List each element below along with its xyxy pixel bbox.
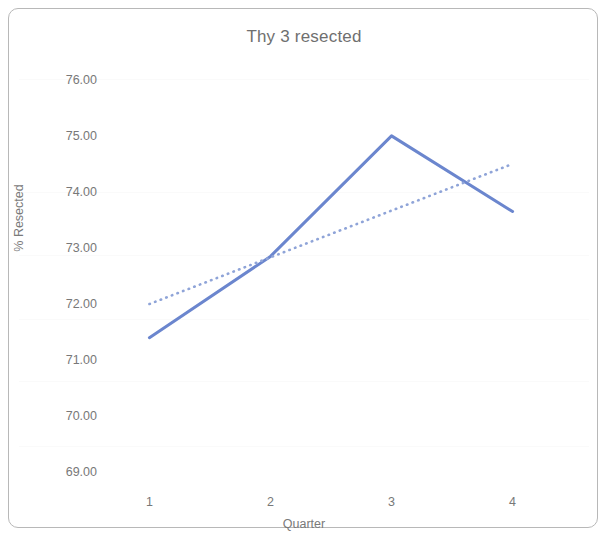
x-tick-label: 3 <box>362 495 422 509</box>
y-axis-title: % Resected <box>12 148 26 288</box>
y-tick-label: 76.00 <box>45 73 97 87</box>
y-tick-label: 72.00 <box>45 297 97 311</box>
trendline <box>149 164 512 304</box>
y-tick-label: 74.00 <box>45 185 97 199</box>
y-tick-label: 69.00 <box>45 465 97 479</box>
chart-title: Thy 3 resected <box>9 27 599 47</box>
x-tick-label: 1 <box>119 495 179 509</box>
x-axis-tick-labels: 1234 <box>101 495 561 515</box>
y-axis-tick-labels: 69.0070.0071.0072.0073.0074.0075.0076.00 <box>45 63 97 489</box>
chart-figure-frame: Thy 3 resected % Resected 69.0070.0071.0… <box>8 8 598 528</box>
y-tick-label: 75.00 <box>45 129 97 143</box>
plot-svg <box>101 63 561 489</box>
y-tick-label: 73.00 <box>45 241 97 255</box>
plot-area <box>101 63 561 489</box>
y-tick-label: 70.00 <box>45 409 97 423</box>
x-axis-title: Quarter <box>9 517 599 531</box>
x-tick-label: 2 <box>240 495 300 509</box>
x-tick-label: 4 <box>483 495 543 509</box>
y-tick-label: 71.00 <box>45 353 97 367</box>
data-series-line <box>149 136 512 338</box>
